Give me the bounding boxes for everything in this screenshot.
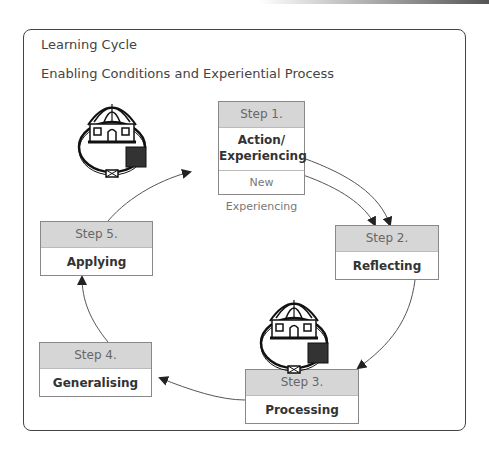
- arrow-step4-step5: [82, 277, 108, 342]
- step-1-number: Step 1.: [219, 102, 304, 128]
- arrow-step1-step2-outer: [303, 158, 390, 225]
- step-4-number: Step 4.: [40, 343, 151, 369]
- step-4-box: Step 4. Generalising: [39, 342, 152, 397]
- step-1-box: Step 1. Action/ Experiencing New Experie…: [218, 101, 305, 195]
- step-4-label: Generalising: [40, 369, 151, 397]
- step-3-box: Step 3. Processing: [245, 369, 359, 424]
- step-2-label: Reflecting: [336, 252, 438, 280]
- step-3-label: Processing: [246, 396, 358, 424]
- house-in-circle-icon: [256, 288, 336, 374]
- step-1-label: Action/ Experiencing: [219, 128, 304, 170]
- step-5-label: Applying: [41, 248, 152, 276]
- arrow-step5-step1: [108, 172, 190, 221]
- arrow-step1-step2-inner: [303, 175, 375, 225]
- step-1-sublabel: New Experiencing: [219, 170, 304, 195]
- step-5-number: Step 5.: [41, 222, 152, 248]
- arrow-step3-step4: [160, 378, 245, 400]
- house-in-circle-icon: [74, 92, 154, 178]
- step-5-box: Step 5. Applying: [40, 221, 153, 276]
- step-2-box: Step 2. Reflecting: [335, 225, 439, 280]
- step-2-number: Step 2.: [336, 226, 438, 252]
- arrow-step2-step3: [358, 280, 415, 368]
